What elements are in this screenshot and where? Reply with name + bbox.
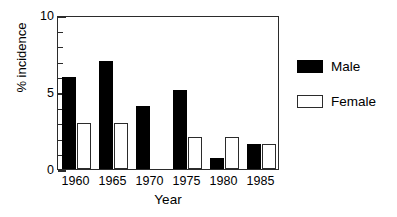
x-tick-label: 1965 xyxy=(99,174,127,188)
legend-swatch-male-icon xyxy=(297,60,323,73)
bar-chart-figure: % incidence 0510 19601965197019751980198… xyxy=(0,0,397,217)
y-tick-minor xyxy=(58,47,63,48)
bar-male-1985 xyxy=(247,144,262,169)
y-tick-label: 10 xyxy=(40,10,54,23)
plot-inner: 0510 xyxy=(58,17,278,169)
x-tick-label: 1980 xyxy=(210,174,238,188)
legend-item-male: Male xyxy=(297,57,376,75)
y-tick-minor xyxy=(58,63,63,64)
x-axis-title: Year xyxy=(57,192,279,207)
y-tick-minor xyxy=(58,32,63,33)
bar-female-1985 xyxy=(262,144,277,169)
bar-female-1965 xyxy=(114,123,129,169)
y-tick-label: 5 xyxy=(47,87,54,100)
legend-item-female: Female xyxy=(297,92,376,110)
x-tick-label: 1975 xyxy=(173,174,201,188)
bar-male-1965 xyxy=(99,61,114,169)
bar-female-1980 xyxy=(225,137,240,169)
y-tick-major: 10 xyxy=(58,16,66,17)
legend-swatch-female-icon xyxy=(297,95,323,108)
y-axis-title: % incidence xyxy=(14,0,29,133)
bar-female-1975 xyxy=(188,137,203,169)
legend-label: Female xyxy=(331,94,376,109)
plot-area: 0510 xyxy=(57,16,279,170)
chart-legend: MaleFemale xyxy=(297,57,376,127)
bar-female-1960 xyxy=(77,123,92,169)
x-tick-label: 1960 xyxy=(62,174,90,188)
y-tick-label: 0 xyxy=(47,164,54,177)
y-tick-major: 0 xyxy=(58,170,66,171)
x-tick-label: 1970 xyxy=(136,174,164,188)
bar-male-1960 xyxy=(62,77,77,169)
bar-male-1975 xyxy=(173,90,188,169)
bar-male-1970 xyxy=(136,106,151,169)
bar-male-1980 xyxy=(210,158,225,169)
legend-label: Male xyxy=(331,59,360,74)
x-tick-label: 1985 xyxy=(247,174,275,188)
